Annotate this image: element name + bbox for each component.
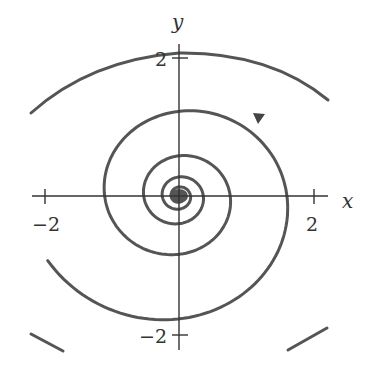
x-axis-label: x — [342, 191, 353, 211]
y-tick-label-neg2: −2 — [139, 327, 167, 346]
outer-bottom-left-fragment — [31, 334, 63, 351]
y-axis-label: y — [172, 12, 183, 32]
x-tick-label-neg2: −2 — [32, 215, 60, 234]
inward-spiral — [48, 111, 288, 320]
y-tick-label-2: 2 — [155, 50, 167, 69]
x-tick-label-2: 2 — [306, 215, 318, 234]
phase-portrait-diagram — [0, 0, 372, 378]
direction-arrow-icon — [253, 113, 265, 124]
outer-bottom-right-fragment — [288, 328, 327, 350]
